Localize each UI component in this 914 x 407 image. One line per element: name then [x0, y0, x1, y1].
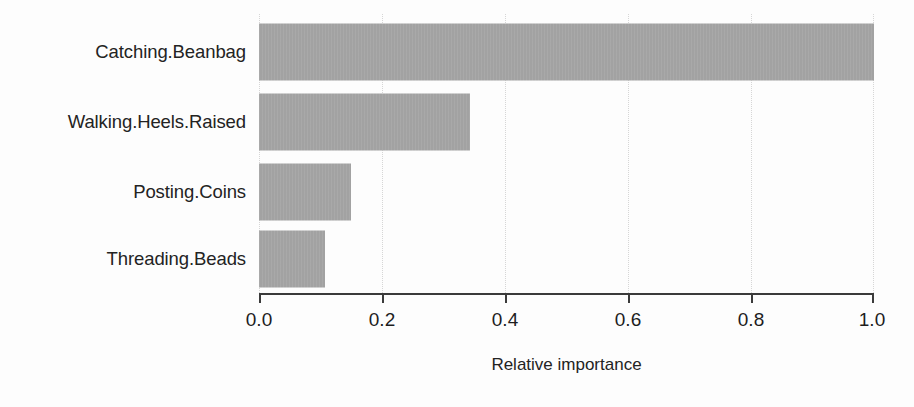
- bar-posting-coins: [259, 163, 351, 220]
- bar-catching-beanbag: [259, 23, 874, 80]
- relative-importance-bar-chart: Catching.Beanbag Walking.Heels.Raised Po…: [0, 0, 914, 407]
- x-tick-label-2: 0.4: [492, 309, 518, 331]
- x-tick-3: [628, 293, 630, 303]
- x-tick-4: [751, 293, 753, 303]
- x-axis-title: Relative importance: [259, 355, 874, 375]
- y-axis-label-2: Posting.Coins: [0, 181, 246, 203]
- y-axis-label-0: Catching.Beanbag: [0, 41, 246, 63]
- bar-walking-heels-raised: [259, 93, 470, 150]
- x-tick-label-1: 0.2: [369, 309, 395, 331]
- x-axis: 0.0 0.2 0.4 0.6 0.8 1.0: [259, 293, 874, 294]
- x-tick-2: [505, 293, 507, 303]
- bar-threading-beads: [259, 230, 325, 287]
- y-axis-label-3: Threading.Beads: [0, 248, 246, 270]
- x-tick-label-5: 1.0: [859, 309, 885, 331]
- x-tick-label-0: 0.0: [246, 309, 272, 331]
- plot-area: [259, 0, 874, 293]
- x-axis-line: [259, 293, 874, 295]
- y-axis-category-labels: Catching.Beanbag Walking.Heels.Raised Po…: [0, 0, 246, 407]
- x-tick-1: [382, 293, 384, 303]
- x-tick-0: [259, 293, 261, 303]
- y-axis-label-1: Walking.Heels.Raised: [0, 111, 246, 133]
- x-tick-5: [872, 293, 874, 303]
- x-tick-label-4: 0.8: [738, 309, 764, 331]
- x-tick-label-3: 0.6: [615, 309, 641, 331]
